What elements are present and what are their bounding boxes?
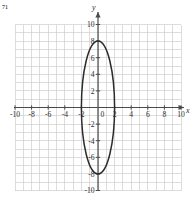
y-axis-label: y	[91, 3, 96, 12]
x-tick-label: 0	[101, 110, 105, 119]
x-tick-label: 10	[177, 110, 185, 119]
y-tick-label: -10	[84, 186, 94, 195]
y-tick-label: 4	[91, 70, 95, 79]
x-tick-label: -10	[10, 110, 20, 119]
x-tick-label: 8	[163, 110, 167, 119]
x-tick-label: -4	[62, 110, 69, 119]
graph-canvas: -10-8-6-4-20246810 108642-2-4-6-8-10 x y	[0, 0, 196, 198]
x-tick-label: -2	[78, 110, 85, 119]
y-tick-label: -6	[88, 153, 95, 162]
x-tick-label: 2	[113, 110, 117, 119]
y-tick-label: 10	[87, 20, 95, 29]
y-tick-label: -2	[88, 120, 95, 129]
y-axis-arrow-icon	[95, 12, 100, 18]
x-tick-label: 6	[146, 110, 150, 119]
x-axis-label: x	[185, 106, 190, 115]
coordinate-plane-figure: -10-8-6-4-20246810 108642-2-4-6-8-10 x y…	[0, 0, 196, 198]
y-tick-label: -4	[88, 137, 95, 146]
corner-mark-text: 71	[2, 4, 8, 10]
axis-lines	[14, 12, 184, 191]
y-tick-label: 8	[91, 37, 95, 46]
corner-mark: 71	[2, 0, 8, 11]
x-tick-label: -8	[28, 110, 35, 119]
y-tick-label: -8	[88, 170, 95, 179]
x-tick-label: 4	[129, 110, 133, 119]
y-tick-label: 6	[91, 54, 95, 63]
x-tick-label: -6	[45, 110, 52, 119]
y-tick-label: 2	[91, 87, 95, 96]
